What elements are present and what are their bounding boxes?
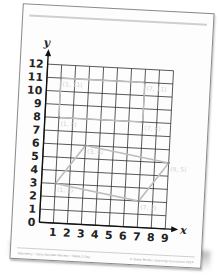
worksheet-page: xy1234567890123456789101112(1, 11)(7, 11… xyxy=(9,3,214,269)
y-axis-arrow-icon xyxy=(45,49,51,56)
x-tick-label: 2 xyxy=(63,227,71,240)
y-tick-label: 9 xyxy=(34,97,42,110)
y-tick-label: 7 xyxy=(32,123,40,136)
x-tick-label: 6 xyxy=(119,230,128,243)
coordinate-grid: xy1234567890123456789101112(1, 11)(7, 11… xyxy=(10,4,213,268)
x-tick-label: 8 xyxy=(147,231,155,244)
grid-line-horizontal xyxy=(48,64,174,71)
y-tick-label: 4 xyxy=(30,163,39,176)
point-label: (7, 11) xyxy=(146,85,166,93)
x-tick-label: 7 xyxy=(133,230,141,243)
point-label: (3, 6) xyxy=(87,148,103,156)
point-label: (7, 8) xyxy=(144,124,160,132)
y-tick-label: 11 xyxy=(27,70,43,84)
y-tick-label: 1 xyxy=(28,203,36,216)
y-tick-label: 6 xyxy=(32,137,41,150)
point-label: (7, 2) xyxy=(140,203,156,211)
grid-line-horizontal xyxy=(44,143,170,150)
y-tick-label: 8 xyxy=(33,110,41,123)
x-tick-label: 4 xyxy=(91,228,100,241)
point-marker xyxy=(58,116,61,119)
x-tick-label: 5 xyxy=(105,229,113,242)
point-label: (9, 5) xyxy=(170,165,186,173)
y-tick-label: 0 xyxy=(27,216,36,229)
x-axis-arrow-icon xyxy=(171,226,178,232)
x-tick-label: 9 xyxy=(161,232,169,245)
y-axis-label: y xyxy=(42,36,52,49)
y-tick-label: 12 xyxy=(28,57,44,71)
point-label: (1, 11) xyxy=(62,80,82,88)
x-axis-label: x xyxy=(179,224,188,237)
x-tick-label: 3 xyxy=(77,227,85,240)
y-tick-label: 3 xyxy=(29,176,37,189)
point-marker xyxy=(143,81,146,84)
y-tick-label: 10 xyxy=(27,83,43,97)
grid-line-horizontal xyxy=(41,196,167,203)
point-marker xyxy=(60,77,63,80)
point-marker xyxy=(141,121,144,124)
x-tick-label: 1 xyxy=(49,226,57,239)
y-tick-label: 2 xyxy=(29,189,37,202)
grid-line-horizontal xyxy=(46,104,172,111)
point-label: (1, 8) xyxy=(60,120,76,128)
y-tick-label: 5 xyxy=(31,150,39,163)
point-label: (1, 3) xyxy=(57,186,73,194)
